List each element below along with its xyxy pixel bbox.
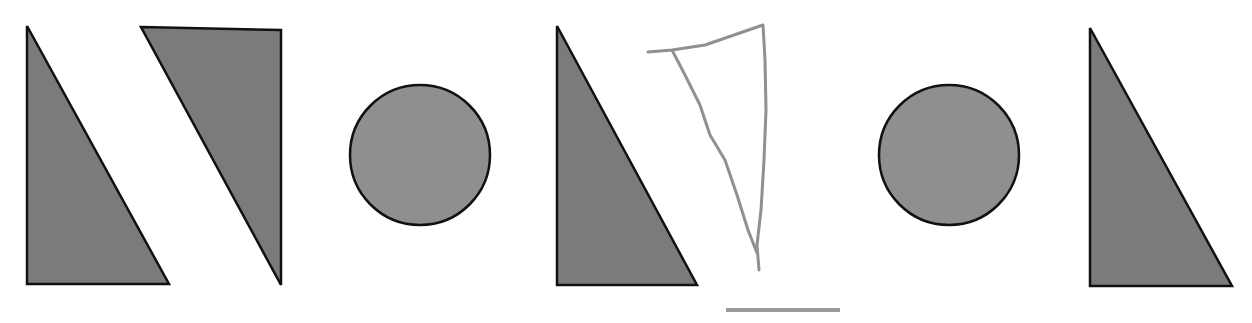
- circle-2: [879, 85, 1019, 225]
- right-triangle-2: [141, 27, 281, 285]
- right-triangle-3: [557, 26, 697, 285]
- diagram-canvas: [0, 0, 1252, 323]
- right-triangle-1: [27, 26, 169, 284]
- right-triangle-4: [1090, 28, 1232, 286]
- circle-1: [350, 85, 490, 225]
- shape-sequence-diagram: [0, 0, 1252, 323]
